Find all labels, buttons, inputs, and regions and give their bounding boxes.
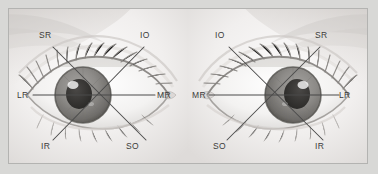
axis-sr-so	[227, 47, 320, 140]
right-eye-panel: IO SR MR LR SO IR	[187, 9, 367, 163]
label-lr: LR	[339, 91, 350, 100]
label-so: SO	[213, 142, 226, 151]
label-io: IO	[140, 31, 150, 40]
label-lr: LR	[17, 91, 28, 100]
label-sr: SR	[39, 31, 51, 40]
label-mr: MR	[157, 91, 171, 100]
label-sr: SR	[315, 31, 327, 40]
label-ir: IR	[41, 142, 50, 151]
label-so: SO	[126, 142, 139, 151]
right-eye-muscle-axes	[187, 9, 367, 163]
label-io: IO	[215, 31, 225, 40]
figure-plate: SR IO LR MR IR SO	[8, 8, 368, 164]
extraocular-muscle-figure: SR IO LR MR IR SO	[0, 0, 378, 174]
left-eye-muscle-axes	[9, 9, 189, 163]
label-mr: MR	[192, 91, 206, 100]
axis-io-ir	[229, 47, 323, 140]
label-ir: IR	[315, 142, 324, 151]
left-eye-panel: SR IO LR MR IR SO	[9, 9, 189, 163]
